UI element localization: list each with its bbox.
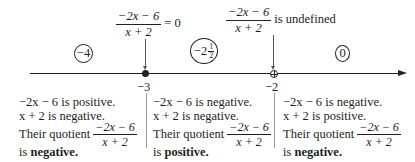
quotient-fraction: −2x − 6 x + 2 [93, 121, 137, 148]
open-crossed-circle-icon [270, 70, 278, 78]
annotation-zero: −2x − 6 x + 2 = 0 [116, 10, 181, 38]
interval-description-3: −2x − 6 is negative. x + 2 is positive. … [283, 95, 408, 159]
quotient-fraction: −2x − 6 x + 2 [357, 121, 401, 148]
conclusion-sign: negative. [30, 145, 78, 159]
fraction-denominator: x + 2 [236, 135, 261, 148]
fraction: −2x − 6 x + 2 [226, 6, 271, 34]
quotient-prefix: Their quotient [19, 127, 90, 141]
test-point-label: −2 [194, 44, 207, 59]
quotient-line: Their quotient −2x − 6 x + 2 [153, 123, 273, 145]
fraction-denominator: x + 2 [102, 135, 127, 148]
numerator-sign-text: −2x − 6 is negative. [153, 95, 273, 109]
annotation-suffix: is undefined [274, 12, 335, 26]
conclusion-prefix: is [19, 145, 27, 159]
numerator-sign-text: −2x − 6 is negative. [283, 95, 408, 109]
test-point-neg4: −4 [74, 44, 93, 63]
conclusion-prefix: is [153, 145, 161, 159]
test-point-neg2-half: −2 1 2 [190, 38, 218, 64]
quotient-line: Their quotient −2x − 6 x + 2 [283, 123, 408, 145]
fraction-numerator: −2x − 6 [227, 121, 271, 135]
quotient-prefix: Their quotient [283, 127, 354, 141]
mixed-fraction-denominator: 2 [209, 52, 213, 60]
interval-description-2: −2x − 6 is negative. x + 2 is negative. … [153, 95, 273, 159]
conclusion-sign: positive. [164, 145, 208, 159]
mixed-fraction: 1 2 [208, 43, 214, 60]
fraction-numerator: −2x − 6 [93, 121, 137, 135]
number-line [30, 73, 402, 74]
fraction-numerator: −2x − 6 [357, 121, 401, 135]
tick-label-neg3: −3 [137, 80, 150, 95]
fraction: −2x − 6 x + 2 [116, 10, 161, 38]
test-point-label: 0 [339, 46, 345, 61]
test-point-label: −4 [77, 46, 90, 61]
test-point-zero: 0 [335, 45, 350, 62]
quotient-line: Their quotient −2x − 6 x + 2 [19, 123, 139, 145]
tick-label-neg2: −2 [265, 80, 278, 95]
quotient-fraction: −2x − 6 x + 2 [227, 121, 271, 148]
interval-divider [146, 93, 147, 148]
numerator-sign-text: −2x − 6 is positive. [19, 95, 139, 109]
conclusion-prefix: is [283, 145, 291, 159]
fraction-numerator: −2x − 6 [116, 10, 161, 25]
annotation-undefined: −2x − 6 x + 2 is undefined [226, 6, 336, 34]
arrow-shaft [145, 39, 146, 67]
interval-divider [274, 93, 275, 148]
arrow-right-icon [398, 70, 407, 76]
fraction-denominator: x + 2 [125, 25, 151, 39]
fraction-denominator: x + 2 [235, 21, 261, 35]
quotient-prefix: Their quotient [153, 127, 224, 141]
fraction-numerator: −2x − 6 [226, 6, 271, 21]
interval-description-1: −2x − 6 is positive. x + 2 is negative. … [19, 95, 139, 159]
filled-dot-icon [142, 70, 149, 77]
conclusion-sign: negative. [294, 145, 342, 159]
arrow-shaft [273, 35, 274, 67]
fraction-denominator: x + 2 [366, 135, 391, 148]
annotation-suffix: = 0 [164, 16, 180, 30]
